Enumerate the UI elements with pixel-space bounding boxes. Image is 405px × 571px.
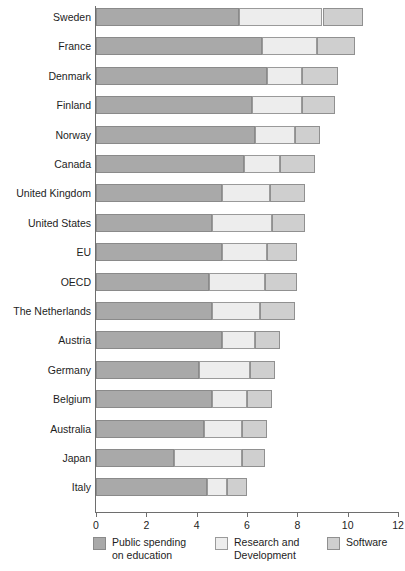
x-tick-label: 4	[177, 519, 217, 531]
bar-segment	[96, 302, 212, 320]
x-tick-label: 12	[378, 519, 405, 531]
bar-segment	[265, 273, 298, 291]
bar-segment	[295, 126, 320, 144]
bar-row: Australia	[0, 418, 405, 447]
x-tick-label: 0	[76, 519, 116, 531]
x-axis: 024681012	[0, 512, 405, 536]
bar-segment	[252, 96, 302, 114]
legend-swatch-icon	[215, 537, 228, 550]
bar-segment	[212, 390, 247, 408]
bar-segment	[242, 449, 265, 467]
plot-area: SwedenFranceDenmarkFinlandNorwayCanadaUn…	[0, 0, 405, 512]
bar-row: Canada	[0, 153, 405, 182]
legend-label: Public spending on education	[112, 536, 186, 561]
category-label: Denmark	[0, 67, 91, 85]
bar-segment	[204, 420, 242, 438]
bar-row: Belgium	[0, 388, 405, 417]
category-label: OECD	[0, 273, 91, 291]
bar-segment	[222, 331, 255, 349]
legend-item[interactable]: Public spending on education	[93, 536, 186, 561]
x-tick-label: 10	[328, 519, 368, 531]
bar-row: United States	[0, 212, 405, 241]
bar-segment	[212, 214, 272, 232]
bar-segment	[96, 8, 239, 26]
stacked-bar-chart: SwedenFranceDenmarkFinlandNorwayCanadaUn…	[0, 0, 405, 571]
bar-segment	[302, 96, 335, 114]
category-label: Italy	[0, 478, 91, 496]
bar-row: Germany	[0, 359, 405, 388]
bar-segment	[262, 37, 317, 55]
bar-segment	[250, 361, 275, 379]
bar-segment	[260, 302, 295, 320]
bar-row: Japan	[0, 447, 405, 476]
bar-row: EU	[0, 241, 405, 270]
bar-segment	[212, 302, 260, 320]
category-label: Japan	[0, 449, 91, 467]
legend-item[interactable]: Research and Development	[215, 536, 299, 561]
bar-row: Finland	[0, 94, 405, 123]
bar-row: United Kingdom	[0, 182, 405, 211]
bar-row: Austria	[0, 329, 405, 358]
bar-segment	[302, 67, 337, 85]
bar-segment	[255, 331, 280, 349]
legend-swatch-icon	[327, 537, 340, 550]
bar-segment	[239, 8, 322, 26]
x-tick	[398, 512, 399, 517]
legend-swatch-icon	[93, 537, 106, 550]
bar-row: Sweden	[0, 6, 405, 35]
bar-segment	[96, 155, 244, 173]
bar-segment	[317, 37, 355, 55]
bar-segment	[255, 126, 295, 144]
bar-segment	[96, 126, 255, 144]
bar-segment	[280, 155, 315, 173]
category-label: Norway	[0, 126, 91, 144]
x-tick	[247, 512, 248, 517]
legend-item[interactable]: Software	[327, 536, 387, 550]
category-label: Finland	[0, 96, 91, 114]
bar-segment	[222, 243, 267, 261]
bar-segment	[207, 478, 227, 496]
bar-segment	[209, 273, 264, 291]
bar-segment	[96, 96, 252, 114]
legend-label: Research and Development	[234, 536, 299, 561]
x-tick-label: 8	[277, 519, 317, 531]
bar-row: France	[0, 35, 405, 64]
bar-segment	[96, 67, 267, 85]
category-label: France	[0, 37, 91, 55]
bar-segment	[244, 155, 279, 173]
bar-segment	[267, 67, 302, 85]
bar-segment	[174, 449, 242, 467]
category-label: EU	[0, 243, 91, 261]
legend-label: Software	[346, 536, 387, 549]
bar-row: The Netherlands	[0, 300, 405, 329]
bar-segment	[267, 243, 297, 261]
bar-row: Norway	[0, 124, 405, 153]
x-tick	[348, 512, 349, 517]
bar-row: OECD	[0, 271, 405, 300]
bar-segment	[222, 184, 270, 202]
bar-segment	[96, 420, 204, 438]
category-label: Belgium	[0, 390, 91, 408]
bar-segment	[96, 478, 207, 496]
category-label: Germany	[0, 361, 91, 379]
category-label: Canada	[0, 155, 91, 173]
bar-segment	[227, 478, 247, 496]
category-label: United Kingdom	[0, 184, 91, 202]
bar-segment	[247, 390, 272, 408]
category-label: Australia	[0, 420, 91, 438]
bar-row: Italy	[0, 476, 405, 505]
x-tick	[146, 512, 147, 517]
x-tick	[197, 512, 198, 517]
bar-segment	[96, 37, 262, 55]
bar-segment	[272, 214, 305, 232]
bar-row: Denmark	[0, 65, 405, 94]
bar-segment	[242, 420, 267, 438]
category-label: United States	[0, 214, 91, 232]
category-label: Austria	[0, 331, 91, 349]
category-label: Sweden	[0, 8, 91, 26]
bar-segment	[96, 390, 212, 408]
x-tick-label: 6	[227, 519, 267, 531]
x-tick	[96, 512, 97, 517]
bar-segment	[96, 449, 174, 467]
bar-segment	[96, 273, 209, 291]
